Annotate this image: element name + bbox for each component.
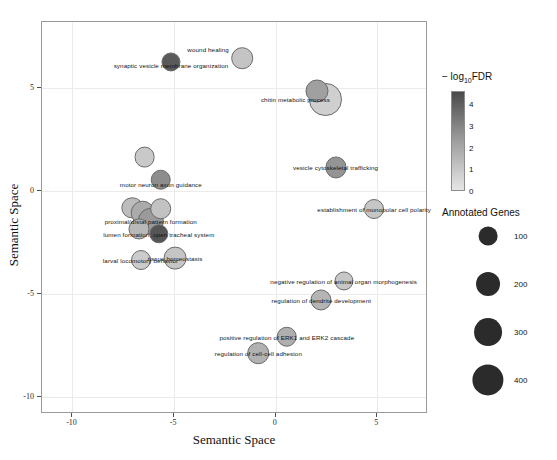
y-tick-label: -5 bbox=[27, 289, 34, 298]
colorbar-tick-label: 4 bbox=[469, 100, 473, 109]
fdr-colorbar bbox=[451, 91, 465, 191]
x-tick-label: -5 bbox=[170, 418, 177, 427]
data-point-label: establishment of monopolar cell polarity bbox=[317, 205, 431, 212]
y-tick-mark bbox=[37, 396, 41, 397]
size-legend-label: 300 bbox=[514, 328, 527, 337]
size-legend-label: 400 bbox=[514, 376, 527, 385]
gridline-horizontal bbox=[42, 191, 426, 192]
size-legend-title: Annotated Genes bbox=[442, 207, 520, 218]
y-tick-label: 5 bbox=[30, 83, 34, 92]
x-tick-label: -10 bbox=[66, 418, 77, 427]
colorbar-title-suffix: FDR bbox=[472, 71, 493, 82]
data-point-label: synaptic vesicle membrane organization bbox=[114, 62, 229, 69]
y-tick-mark bbox=[37, 87, 41, 88]
legend-area: − log10FDR Annotated Genes 4321010020030… bbox=[436, 21, 557, 413]
colorbar-tick-label: 3 bbox=[469, 121, 473, 130]
size-legend-label: 200 bbox=[514, 280, 527, 289]
figure-canvas: Semantic Space Semantic Space − log10FDR… bbox=[0, 0, 557, 460]
data-point-bubble[interactable] bbox=[231, 47, 253, 69]
data-point-label: regulation of dendrite development bbox=[272, 296, 372, 303]
colorbar-title-prefix: − log bbox=[442, 71, 464, 82]
data-point-label: tissue homeostasis bbox=[148, 255, 203, 262]
x-tick-mark bbox=[275, 413, 276, 417]
gridline-vertical bbox=[72, 22, 73, 412]
x-tick-label: 0 bbox=[273, 418, 277, 427]
data-point-label: motor neuron axon guidance bbox=[120, 180, 202, 187]
x-tick-mark bbox=[71, 413, 72, 417]
size-legend-key bbox=[474, 318, 502, 346]
x-tick-label: 5 bbox=[374, 418, 378, 427]
x-axis-title: Semantic Space bbox=[41, 432, 427, 448]
x-tick-mark bbox=[173, 413, 174, 417]
y-tick-label: 0 bbox=[30, 186, 34, 195]
colorbar-tick-label: 2 bbox=[469, 143, 473, 152]
y-tick-label: -10 bbox=[23, 392, 34, 401]
colorbar-title: − log10FDR bbox=[442, 71, 492, 84]
colorbar-tick-label: 1 bbox=[469, 165, 473, 174]
size-legend-key bbox=[479, 227, 498, 246]
colorbar-tick-label: 0 bbox=[469, 187, 473, 196]
gridline-horizontal bbox=[42, 88, 426, 89]
data-point-label: lumen formation, open tracheal system bbox=[103, 230, 214, 237]
size-legend-key bbox=[476, 272, 500, 296]
data-point-label: regulation of cell-cell adhesion bbox=[215, 350, 302, 357]
data-point-label: chitin metabolic process bbox=[261, 96, 330, 103]
data-point-bubble[interactable] bbox=[150, 198, 172, 220]
y-axis-title: Semantic Space bbox=[6, 125, 22, 325]
size-legend-key bbox=[472, 364, 503, 395]
data-point-label: vesicle cytoskeletal trafficking bbox=[293, 164, 378, 171]
y-tick-mark bbox=[37, 293, 41, 294]
colorbar-title-sub: 10 bbox=[464, 77, 472, 84]
data-point-bubble[interactable] bbox=[134, 147, 155, 168]
data-point-label: wound healing bbox=[187, 46, 229, 53]
data-point-label: positive regulation of ERK1 and ERK2 cas… bbox=[219, 333, 354, 340]
y-tick-mark bbox=[37, 190, 41, 191]
data-point-label: proximal/distal pattern formation bbox=[105, 218, 197, 225]
size-legend-label: 100 bbox=[514, 232, 527, 241]
data-point-label: negative regulation of animal organ morp… bbox=[270, 277, 417, 284]
gridline-horizontal bbox=[42, 397, 426, 398]
x-tick-mark bbox=[376, 413, 377, 417]
